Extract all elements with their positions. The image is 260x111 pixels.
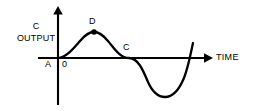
y-axis-label-bottom: OUTPUT [14, 34, 58, 43]
sine-wave-diagram: C OUTPUT D C A 0 TIME [0, 0, 260, 111]
y-axis-label-top: C [14, 22, 58, 31]
y-axis-arrow-icon [53, 6, 62, 15]
zero-crossing-label: C [123, 43, 130, 52]
peak-point-label: D [89, 17, 96, 26]
y-axis [53, 6, 62, 105]
x-axis-label: TIME [216, 53, 239, 62]
peak-point-marker [91, 29, 97, 35]
origin-value-label: 0 [62, 60, 67, 69]
origin-left-label: A [45, 60, 51, 69]
x-axis-arrow-icon [204, 53, 213, 63]
y-axis-label: C OUTPUT [14, 22, 58, 43]
